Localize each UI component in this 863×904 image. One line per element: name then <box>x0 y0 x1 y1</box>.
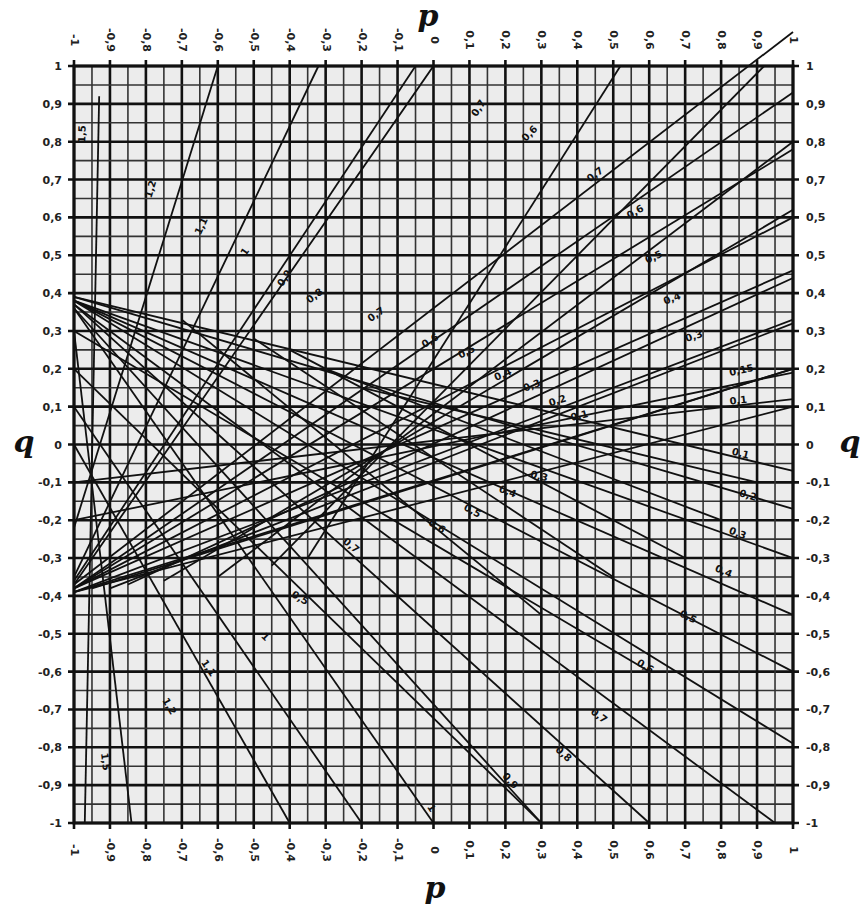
y-tick-label-left: 0,1 <box>43 401 63 414</box>
y-tick-label-right: 0,7 <box>806 174 826 187</box>
x-tick-label-bottom: -0,7 <box>176 838 189 862</box>
x-tick-label-bottom: 0 <box>428 846 441 854</box>
y-tick-label-right: -0,9 <box>806 779 830 792</box>
x-tick-label-top: -0,4 <box>284 28 297 52</box>
y-tick-label-left: -0,1 <box>38 476 62 489</box>
y-tick-label-right: 0,9 <box>806 98 826 111</box>
x-tick-label-bottom: 0,2 <box>499 840 512 860</box>
y-tick-label-left: 0,5 <box>43 249 63 262</box>
y-tick-label-left: 0,3 <box>43 325 63 338</box>
y-tick-label-right: 0,2 <box>806 363 826 376</box>
y-tick-label-right: -0,1 <box>806 476 830 489</box>
x-tick-label-bottom: 0,3 <box>535 840 548 860</box>
x-tick-label-top: 0,9 <box>751 30 764 50</box>
x-tick-label-bottom: 0,5 <box>607 840 620 860</box>
y-tick-label-left: -1 <box>50 817 62 830</box>
x-tick-label-top: -1 <box>68 34 81 46</box>
x-tick-label-top: 0,1 <box>463 30 476 50</box>
p-axis-title-bottom: p <box>425 870 446 904</box>
y-tick-label-right: -0,3 <box>806 552 830 565</box>
x-tick-label-bottom: 0,1 <box>463 840 476 860</box>
x-tick-label-bottom: 1 <box>787 846 800 854</box>
x-tick-label-bottom: -0,5 <box>248 838 261 862</box>
x-tick-label-bottom: -0,8 <box>140 838 153 862</box>
y-tick-label-right: -0,6 <box>806 666 830 679</box>
y-tick-label-left: 1 <box>54 60 62 73</box>
x-tick-label-top: 0,5 <box>607 30 620 50</box>
y-axis-right-ticks: 10,90,80,70,50,50,40,30,20,10-0,1-0,2-0,… <box>806 60 830 830</box>
x-tick-label-top: 0,2 <box>499 30 512 50</box>
nomogram-chart: 1,51,21,110,90,80,70,60,50,40,30,20,10,7… <box>0 0 863 904</box>
x-tick-label-top: 0,3 <box>535 30 548 50</box>
y-tick-label-left: -0,6 <box>38 666 62 679</box>
x-tick-label-bottom: 0,7 <box>679 840 692 860</box>
y-tick-label-right: -0,7 <box>806 703 830 716</box>
y-tick-label-left: -0,4 <box>38 590 62 603</box>
y-tick-label-right: 0,8 <box>806 136 826 149</box>
root-line-label: 1,5 <box>76 125 87 143</box>
y-tick-label-left: -0,3 <box>38 552 62 565</box>
x-axis-bottom-ticks: -1-0,9-0,8-0,7-0,6-0,5-0,4-0,3-0,2-0,100… <box>68 838 800 862</box>
x-tick-label-bottom: 0,8 <box>715 840 728 860</box>
x-tick-label-bottom: 0,4 <box>571 840 584 860</box>
y-tick-label-left: 0,6 <box>43 211 63 224</box>
x-tick-label-bottom: -1 <box>68 844 81 856</box>
x-tick-label-top: -0,7 <box>176 28 189 52</box>
x-tick-label-bottom: 0,9 <box>751 840 764 860</box>
y-tick-label-left: -0,5 <box>38 628 62 641</box>
y-tick-label-left: 0,2 <box>43 363 63 376</box>
y-tick-label-right: 0 <box>806 439 814 452</box>
y-tick-label-right: -0,5 <box>806 628 830 641</box>
x-tick-label-top: 1 <box>787 36 800 44</box>
root-line-label: 1,5 <box>99 752 112 771</box>
x-tick-label-bottom: -0,4 <box>284 838 297 862</box>
x-tick-label-top: -0,2 <box>356 28 369 52</box>
y-tick-label-right: -1 <box>806 817 818 830</box>
y-tick-label-right: 0,3 <box>806 325 826 338</box>
y-tick-label-right: 0,4 <box>806 287 826 300</box>
x-tick-label-bottom: -0,2 <box>356 838 369 862</box>
p-axis-title-top: p <box>418 0 439 33</box>
y-tick-label-left: 0 <box>54 439 62 452</box>
x-tick-label-top: 0,7 <box>679 30 692 50</box>
x-tick-label-top: -0,8 <box>140 28 153 52</box>
x-tick-label-top: -0,5 <box>248 28 261 52</box>
x-tick-label-top: -0,1 <box>392 28 405 52</box>
y-tick-label-left: 0,7 <box>43 174 63 187</box>
y-tick-label-right: 0,5 <box>806 211 826 224</box>
y-tick-label-right: -0,4 <box>806 590 830 603</box>
x-tick-label-bottom: -0,1 <box>392 838 405 862</box>
x-tick-label-top: -0,6 <box>212 28 225 52</box>
x-tick-label-top: 0,6 <box>643 30 656 50</box>
x-tick-label-top: 0,4 <box>571 30 584 50</box>
root-line-label: 0,1 <box>729 394 748 407</box>
y-tick-label-right: -0,8 <box>806 741 830 754</box>
x-tick-label-top: -0,3 <box>320 28 333 52</box>
y-tick-label-right: -0,2 <box>806 514 830 527</box>
x-tick-label-top: 0 <box>428 36 441 44</box>
x-tick-label-bottom: 0,6 <box>643 840 656 860</box>
y-tick-label-left: -0,7 <box>38 703 62 716</box>
y-tick-label-left: -0,9 <box>38 779 62 792</box>
y-tick-label-left: 0,9 <box>43 98 63 111</box>
y-axis-left-ticks: 10,90,80,70,60,50,40,30,20,10-0,1-0,2-0,… <box>38 60 62 830</box>
y-tick-label-left: -0,2 <box>38 514 62 527</box>
x-tick-label-bottom: -0,6 <box>212 838 225 862</box>
y-tick-label-right: 0,5 <box>806 249 826 262</box>
x-tick-label-top: 0,8 <box>715 30 728 50</box>
y-tick-label-right: 1 <box>806 60 814 73</box>
x-tick-label-bottom: -0,3 <box>320 838 333 862</box>
q-axis-title-left: q <box>14 424 35 459</box>
x-tick-label-top: -0,9 <box>104 28 117 52</box>
y-tick-label-right: 0,1 <box>806 401 826 414</box>
y-tick-label-left: 0,4 <box>43 287 63 300</box>
y-tick-label-left: 0,8 <box>43 136 63 149</box>
x-tick-label-bottom: -0,9 <box>104 838 117 862</box>
q-axis-title-right: q <box>840 424 861 459</box>
y-tick-label-left: -0,8 <box>38 741 62 754</box>
